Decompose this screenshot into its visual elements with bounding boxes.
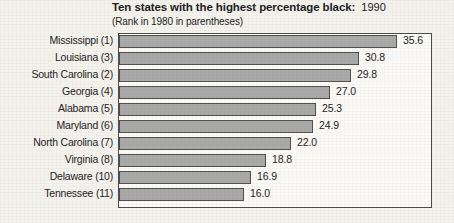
category-label: Alabama (5): [0, 101, 113, 115]
category-label: Louisiana (3): [0, 50, 113, 64]
bar: [119, 188, 244, 201]
bar-wrapper: [119, 171, 251, 184]
bar: [119, 103, 316, 116]
bar: [119, 171, 251, 184]
bar-row: Alabama (5)25.3: [0, 101, 454, 118]
bar: [119, 137, 291, 150]
value-label: 16.0: [250, 186, 270, 200]
category-label: Mississippi (1): [0, 33, 113, 47]
title-block: Ten states with the highest percentage b…: [112, 1, 448, 28]
bar-row: Tennessee (11)16.0: [0, 186, 454, 203]
bar-rows: Mississippi (1)35.6Louisiana (3)30.8Sout…: [0, 33, 454, 208]
value-label: 24.9: [319, 118, 339, 132]
category-label: Tennessee (11): [0, 186, 113, 200]
chart-title: Ten states with the highest percentage b…: [112, 1, 448, 14]
category-label: North Carolina (7): [0, 135, 113, 149]
value-label: 25.3: [322, 101, 342, 115]
category-label: Virginia (8): [0, 152, 113, 166]
bar-row: Georgia (4)27.0: [0, 84, 454, 101]
bar-row: Louisiana (3)30.8: [0, 50, 454, 67]
value-label: 18.8: [272, 152, 292, 166]
bar-row: Mississippi (1)35.6: [0, 33, 454, 50]
bar-row: South Carolina (2)29.8: [0, 67, 454, 84]
chart-title-year: 1990: [355, 1, 386, 13]
bar: [119, 52, 359, 65]
bar-row: Maryland (6)24.9: [0, 118, 454, 135]
bar-wrapper: [119, 103, 316, 116]
bar: [119, 69, 351, 82]
bar-wrapper: [119, 35, 397, 48]
bar-wrapper: [119, 69, 351, 82]
bar-row: North Carolina (7)22.0: [0, 135, 454, 152]
category-label: Maryland (6): [0, 118, 113, 132]
category-label: Delaware (10): [0, 169, 113, 183]
category-label: South Carolina (2): [0, 67, 113, 81]
value-label: 30.8: [365, 50, 385, 64]
bar: [119, 35, 397, 48]
chart-container: Ten states with the highest percentage b…: [0, 0, 454, 223]
bar-row: Delaware (10)16.9: [0, 169, 454, 186]
bar-wrapper: [119, 188, 244, 201]
bar-wrapper: [119, 86, 330, 99]
bar-wrapper: [119, 154, 266, 167]
bar-wrapper: [119, 52, 359, 65]
value-label: 27.0: [336, 84, 356, 98]
value-label: 16.9: [257, 169, 277, 183]
bar: [119, 120, 313, 133]
chart-subtitle: (Rank in 1980 in parentheses): [112, 15, 448, 28]
value-label: 35.6: [403, 33, 423, 47]
bar-wrapper: [119, 120, 313, 133]
category-label: Georgia (4): [0, 84, 113, 98]
bar: [119, 86, 330, 99]
value-label: 22.0: [297, 135, 317, 149]
value-label: 29.8: [357, 67, 377, 81]
bar-row: Virginia (8)18.8: [0, 152, 454, 169]
bar: [119, 154, 266, 167]
chart-title-text: Ten states with the highest percentage b…: [112, 1, 355, 13]
bar-wrapper: [119, 137, 291, 150]
